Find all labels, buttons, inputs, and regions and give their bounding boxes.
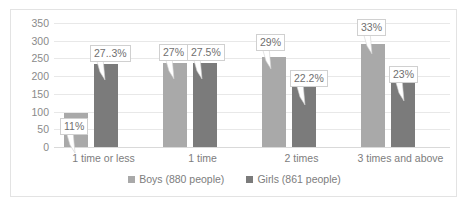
data-label: 27% (159, 44, 188, 61)
bar-group (153, 23, 252, 147)
x-axis-tick-label: 2 times (252, 151, 351, 165)
x-axis-tick-label: 1 time (153, 151, 252, 165)
data-label: 27.5% (187, 44, 225, 61)
data-label: 11% (60, 118, 88, 135)
y-axis: 350300250200150100500 (21, 23, 49, 147)
data-label: 29% (256, 34, 285, 51)
y-axis-tick-label: 50 (21, 124, 49, 135)
data-label: 27..3% (90, 45, 131, 62)
plot-area: 11%27..3%27%27.5%29%22.2%33%23% (54, 23, 450, 147)
legend-label-girls: Girls (861 people) (257, 173, 340, 185)
square-marker-icon (246, 176, 253, 183)
gridline (54, 147, 450, 148)
legend-item-girls[interactable]: Girls (861 people) (246, 173, 340, 185)
y-axis-tick-label: 100 (21, 106, 49, 117)
y-axis-tick-label: 150 (21, 89, 49, 100)
chart-frame: 350300250200150100500 11%27..3%27%27.5%2… (10, 9, 457, 197)
x-axis-category-labels: 1 time or less1 time2 times3 times and a… (54, 151, 450, 167)
y-axis-tick-label: 0 (21, 142, 49, 153)
square-marker-icon (128, 176, 135, 183)
y-axis-tick-label: 300 (21, 35, 49, 46)
y-axis-tick-label: 350 (21, 18, 49, 29)
data-label: 22.2% (290, 70, 328, 87)
legend-label-boys: Boys (880 people) (139, 173, 224, 185)
chart-legend: Boys (880 people) Girls (861 people) (11, 170, 458, 188)
y-axis-tick-label: 200 (21, 71, 49, 82)
bar-boys[interactable] (262, 57, 286, 147)
bar-boys[interactable] (361, 44, 385, 147)
legend-item-boys[interactable]: Boys (880 people) (128, 173, 224, 185)
x-axis-tick-label: 3 times and above (351, 151, 450, 165)
data-label: 33% (357, 19, 386, 36)
y-axis-tick-label: 250 (21, 53, 49, 64)
data-label: 23% (389, 66, 418, 83)
